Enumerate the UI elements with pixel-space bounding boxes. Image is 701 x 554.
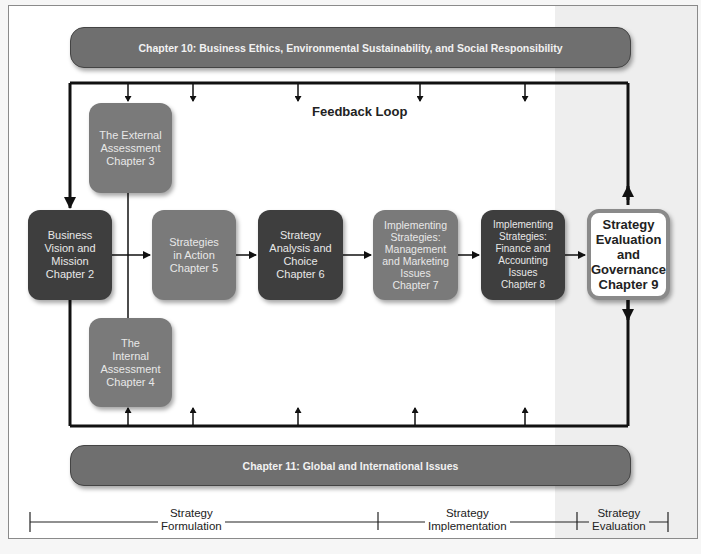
feedback-loop-label: Feedback Loop xyxy=(312,104,407,119)
external-assessment-label: The External Assessment Chapter 3 xyxy=(99,129,161,168)
chapter-11-banner: Chapter 11: Global and International Iss… xyxy=(70,445,631,486)
vision-mission-box: Business Vision and Mission Chapter 2 xyxy=(28,210,112,300)
strategies-in-action-label: Strategies in Action Chapter 5 xyxy=(169,236,219,275)
strategies-in-action-box: Strategies in Action Chapter 5 xyxy=(152,210,236,300)
analysis-choice-box: Strategy Analysis and Choice Chapter 6 xyxy=(258,210,343,300)
strategy-evaluation-label: Strategy Evaluation and Governance Chapt… xyxy=(591,217,666,292)
chapter-11-label: Chapter 11: Global and International Iss… xyxy=(243,460,459,472)
strategy-evaluation-box: Strategy Evaluation and Governance Chapt… xyxy=(587,209,670,300)
impl-finance-box: Implementing Strategies: Finance and Acc… xyxy=(481,210,565,300)
impl-finance-label: Implementing Strategies: Finance and Acc… xyxy=(493,219,553,291)
stage-evaluation-label: Strategy Evaluation xyxy=(589,507,649,533)
chapter-10-label: Chapter 10: Business Ethics, Environment… xyxy=(139,42,563,54)
stage-formulation-label: Strategy Formulation xyxy=(158,507,225,533)
internal-assessment-box: The Internal Assessment Chapter 4 xyxy=(89,318,172,407)
impl-management-label: Implementing Strategies: Management and … xyxy=(382,219,449,291)
analysis-choice-label: Strategy Analysis and Choice Chapter 6 xyxy=(269,229,331,281)
external-assessment-box: The External Assessment Chapter 3 xyxy=(89,103,172,193)
internal-assessment-label: The Internal Assessment Chapter 4 xyxy=(101,337,161,389)
impl-management-box: Implementing Strategies: Management and … xyxy=(373,210,458,300)
vision-mission-label: Business Vision and Mission Chapter 2 xyxy=(44,229,95,281)
chapter-10-banner: Chapter 10: Business Ethics, Environment… xyxy=(70,27,631,68)
stage-implementation-label: Strategy Implementation xyxy=(425,507,510,533)
